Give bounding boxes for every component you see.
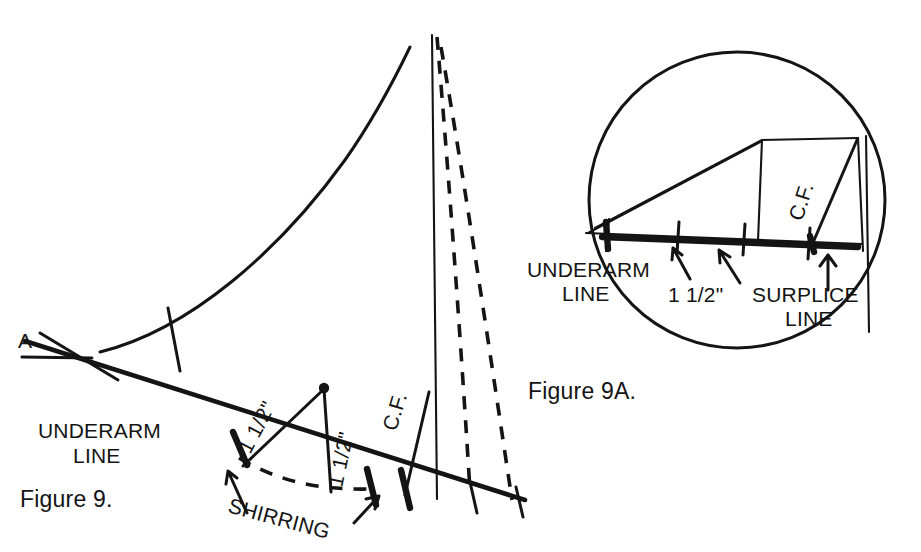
figure-9a-group: UNDERARM LINE 1 1/2" SURPLICE LINE C.F. … <box>527 52 885 404</box>
armhole-curve <box>100 47 410 352</box>
arrow-measure-right-9a <box>719 250 740 283</box>
arrow-measure-left-9a <box>672 248 690 279</box>
label-underarm-line-1-9a: UNDERARM <box>527 258 650 281</box>
label-shirring: SHIRRING <box>226 494 333 543</box>
cf-vertical-outer-9a <box>866 136 869 332</box>
figure-9-caption: Figure 9. <box>20 486 113 512</box>
cf-leader-line-9a <box>812 140 857 245</box>
label-underarm-line-1: UNDERARM <box>38 419 161 442</box>
dart-apex-dot <box>319 383 329 393</box>
surplice-tick-right-9a <box>810 236 814 252</box>
cf-leader-line <box>405 392 429 495</box>
label-underarm-line-2: LINE <box>73 444 121 467</box>
shirring-arrow-right <box>354 496 379 523</box>
pattern-diagram-canvas: A UNDERARM LINE 1 1/2" 1 1/2" SHIRRING C… <box>0 0 921 552</box>
label-center-front-fig9: C.F. <box>378 390 411 433</box>
label-center-front-9a: C.F. <box>784 180 818 223</box>
cf-vertical-line <box>432 35 437 499</box>
wedge-tip-upper <box>588 141 762 233</box>
baseline-tick-b-9a <box>743 224 745 255</box>
baseline-tick-a-9a <box>677 222 679 253</box>
label-surplice-line-1-9a: SURPLICE <box>752 283 859 306</box>
wedge-top-edge <box>595 138 858 228</box>
dashed-seam-inner <box>437 37 470 491</box>
figure-9-group: A UNDERARM LINE 1 1/2" 1 1/2" SHIRRING C… <box>18 35 525 543</box>
wedge-right-edge <box>858 138 863 251</box>
surplice-tick-left-9a <box>606 222 608 249</box>
wedge-vertical-mid <box>758 140 762 241</box>
figure-9a-caption: Figure 9A. <box>528 378 636 404</box>
label-measure-left: 1 1/2" <box>233 397 279 457</box>
baseline-tick-2 <box>516 487 523 517</box>
label-underarm-line-2-9a: LINE <box>562 282 610 305</box>
label-measure-9a: 1 1/2" <box>668 283 723 306</box>
label-surplice-line-2-9a: LINE <box>785 307 833 330</box>
dashed-seam-outer <box>441 47 512 500</box>
label-point-a: A <box>18 329 32 352</box>
